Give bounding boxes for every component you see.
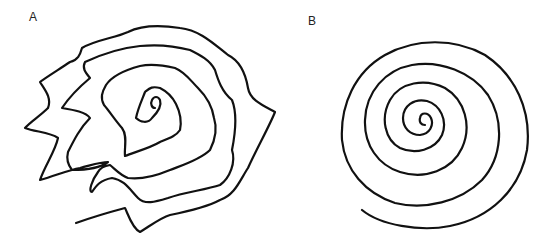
spiral-drawings	[0, 0, 547, 249]
spiral-b	[342, 42, 528, 228]
spiral-a	[25, 26, 275, 232]
